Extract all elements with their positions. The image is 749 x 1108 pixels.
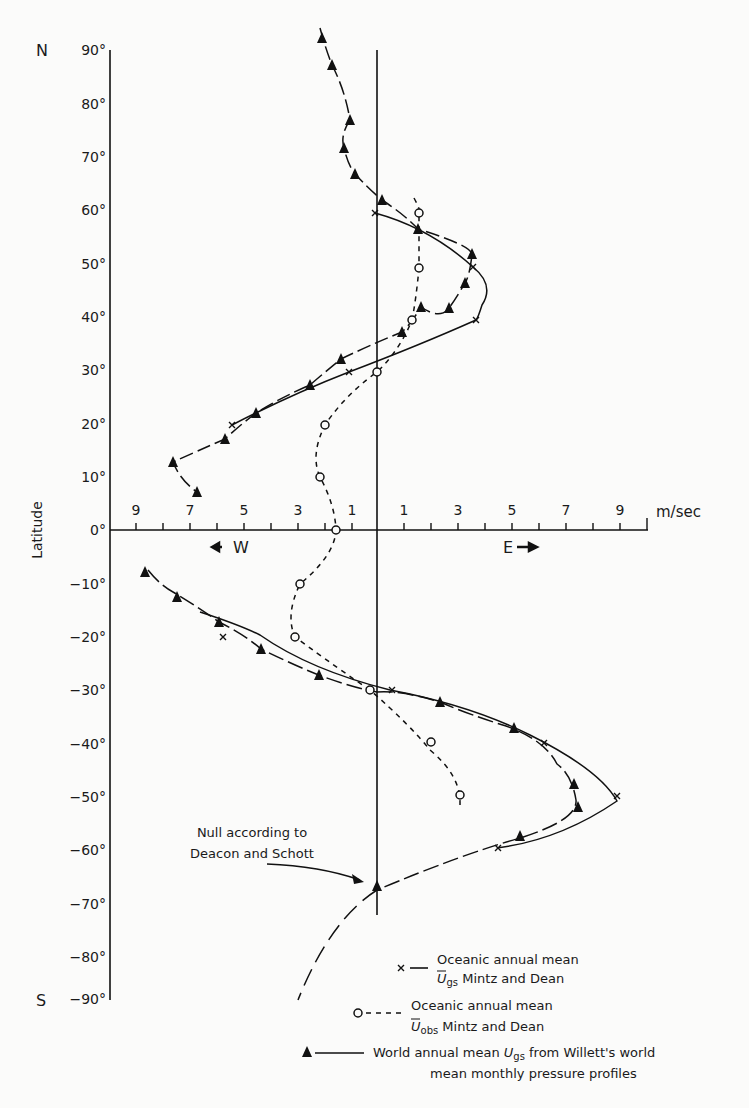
svg-text:Uobs Mintz and Dean: Uobs Mintz and Dean: [411, 1019, 544, 1036]
y-tick: −80°: [69, 949, 106, 965]
legend-ugs-line2: Mintz and Dean: [458, 971, 564, 986]
legend-ugs-line1: Oceanic annual mean: [437, 952, 579, 967]
x-tick-west: 7: [186, 502, 195, 518]
svg-text:Ugs Mintz and Dean: Ugs Mintz and Dean: [437, 971, 564, 988]
y-tick: 60°: [81, 202, 106, 218]
east-direction: E: [503, 538, 537, 557]
legend: Oceanic annual mean Ugs Mintz and Dean O…: [302, 952, 655, 1081]
y-tick: −70°: [69, 896, 106, 912]
legend-item-uobs: Oceanic annual mean Uobs Mintz and Dean: [354, 998, 553, 1036]
x-tick-east: 7: [562, 502, 571, 518]
legend-world-post: from Willett's world: [525, 1045, 655, 1060]
svg-text:World annual mean Ugs from Wil: World annual mean Ugs from Willett's wor…: [373, 1045, 655, 1062]
legend-subscript: gs: [447, 977, 459, 988]
x-tick-east: 1: [400, 502, 409, 518]
y-tick: 0°: [90, 522, 106, 538]
y-tick: 70°: [81, 149, 106, 165]
x-tick-east: 9: [616, 502, 625, 518]
north-label: N: [36, 41, 48, 60]
y-tick: −90°: [69, 991, 106, 1007]
y-tick: 10°: [81, 469, 106, 485]
y-tick: 30°: [81, 362, 106, 378]
x-tick-west: 3: [294, 502, 303, 518]
y-tick: −10°: [69, 576, 106, 592]
x-tick-east: 5: [508, 502, 517, 518]
y-tick: −30°: [69, 682, 106, 698]
y-axis-title: Latitude: [29, 501, 45, 559]
annotation-line1: Null according to: [197, 825, 307, 840]
y-tick: 40°: [81, 309, 106, 325]
legend-uobs-line2: Mintz and Dean: [438, 1019, 544, 1034]
x-tick-west: 9: [132, 502, 141, 518]
null-annotation: Null according to Deacon and Schott: [190, 825, 364, 884]
series-uobs-mintz-dean: [291, 198, 460, 810]
x-tick-labels: 9 7 5 3 1 1 3 5 7 9: [132, 502, 625, 518]
y-tick: 90°: [81, 42, 106, 58]
legend-uobs-line1: Oceanic annual mean: [411, 998, 553, 1013]
legend-symbol: U: [437, 971, 447, 986]
y-tick-labels: 90° 80° 70° 60° 50° 40° 30° 20° 10° 0° −…: [69, 42, 106, 1007]
y-tick: −20°: [69, 629, 106, 645]
y-tick: −60°: [69, 842, 106, 858]
y-tick: 50°: [81, 256, 106, 272]
y-tick: −50°: [69, 789, 106, 805]
y-tick: 80°: [81, 96, 106, 112]
x-tick-east: 3: [454, 502, 463, 518]
annotation-line2: Deacon and Schott: [190, 846, 314, 861]
y-tick: 20°: [81, 416, 106, 432]
annotation-arrow-icon: [352, 874, 364, 884]
triangle-markers: [140, 32, 583, 891]
legend-symbol: U: [504, 1045, 514, 1060]
legend-item-world: World annual mean Ugs from Willett's wor…: [302, 1045, 655, 1081]
legend-subscript: obs: [421, 1025, 439, 1036]
x-unit-label: m/sec: [656, 503, 701, 521]
legend-symbol: U: [411, 1019, 421, 1034]
legend-world-line2: mean monthly pressure profiles: [430, 1066, 637, 1081]
legend-world-pre: World annual mean: [373, 1045, 504, 1060]
x-axis: [110, 518, 648, 530]
west-direction: W: [212, 538, 249, 557]
x-tick-west: 5: [240, 502, 249, 518]
y-tick: −40°: [69, 736, 106, 752]
east-label: E: [503, 538, 513, 557]
x-tick-west: 1: [348, 502, 357, 518]
west-label: W: [233, 538, 249, 557]
legend-subscript: gs: [513, 1051, 525, 1062]
south-label: S: [36, 991, 46, 1010]
chart-canvas: 90° 80° 70° 60° 50° 40° 30° 20° 10° 0° −…: [0, 0, 749, 1108]
legend-item-ugs: Oceanic annual mean Ugs Mintz and Dean: [398, 952, 579, 988]
